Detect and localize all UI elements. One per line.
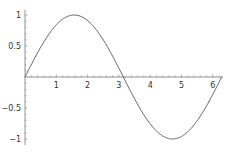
y-tick-label: 0.5 <box>8 42 21 51</box>
x-tick-label: 1 <box>54 81 59 90</box>
y-tick-label: −0.5 <box>2 104 21 113</box>
x-tick-label: 6 <box>210 81 215 90</box>
y-tick-label: 1 <box>16 11 21 20</box>
x-tick-label: 3 <box>116 81 121 90</box>
y-axis: −1−0.50.51 <box>2 10 28 145</box>
x-tick-label: 4 <box>148 81 153 90</box>
x-tick-label: 2 <box>85 81 90 90</box>
x-tick-label: 5 <box>179 81 184 90</box>
x-axis: 123456 <box>25 75 223 91</box>
y-tick-label: −1 <box>9 135 21 144</box>
sine-chart: 123456 −1−0.50.51 <box>0 0 235 154</box>
